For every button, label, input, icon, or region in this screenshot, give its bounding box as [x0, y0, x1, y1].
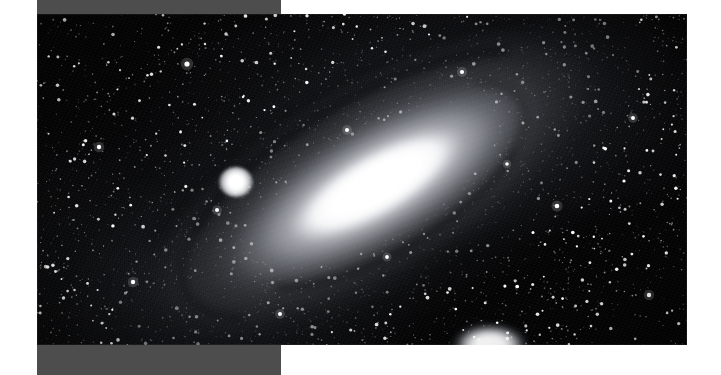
plate-edge	[37, 14, 687, 345]
bottom-mount-band	[37, 345, 281, 375]
screenshot-canvas	[0, 0, 721, 375]
astrophotograph-plate	[37, 14, 687, 345]
top-mount-band	[37, 0, 281, 15]
